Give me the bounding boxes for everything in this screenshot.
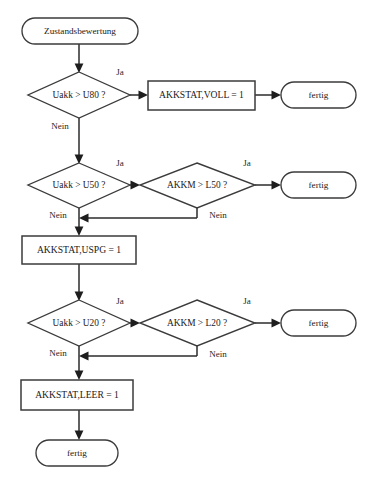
node-end-fertig-l50[interactable]: fertig [281, 172, 356, 198]
node-process-akkstat-uspg[interactable]: AKKSTAT,USPG = 1 [22, 236, 136, 264]
edge-label-ja-l20: Ja [243, 296, 251, 306]
edge-start-to-u80 [75, 43, 84, 73]
edge-label-ja-l50: Ja [243, 158, 251, 168]
node-decision-uakk-u80-label: Uakk > U80 ? [53, 90, 106, 100]
node-decision-uakk-u20-label: Uakk > U20 ? [53, 318, 106, 328]
edge-set-leer-to-end [75, 410, 84, 440]
node-process-akkstat-uspg-label: AKKSTAT,USPG = 1 [37, 244, 121, 255]
edge-set-uspg-to-u20 [75, 263, 84, 301]
node-process-akkstat-voll[interactable]: AKKSTAT,VOLL = 1 [148, 81, 255, 110]
node-decision-akkm-l50-label: AKKM > L50 ? [167, 180, 227, 190]
edge-u80-nein-to-u50 [75, 115, 84, 164]
node-start-zustandsbewertung[interactable]: Zustandsbewertung [22, 18, 138, 44]
edge-l50-nein-merge [79, 206, 197, 222]
flowchart-svg: set_voll --> dec_u50 --> dec_l50 --> end… [0, 0, 376, 486]
node-decision-uakk-u50-label: Uakk > U50 ? [53, 180, 106, 190]
node-decision-uakk-u80[interactable]: Uakk > U80 ? [28, 72, 130, 118]
node-end-fertig-l20-label: fertig [309, 318, 329, 328]
node-end-fertig-voll[interactable]: fertig [281, 82, 356, 108]
edge-l50-ja-to-end [255, 181, 281, 190]
edge-set-voll-to-end [255, 91, 281, 100]
edge-label-nein-u20: Nein [49, 348, 67, 358]
edge-label-nein-u80: Nein [51, 121, 69, 131]
edge-label-ja-u50: Ja [116, 158, 124, 168]
edge-l20-ja-to-end [255, 319, 281, 328]
edge-u20-nein-to-set-leer [75, 345, 84, 380]
node-process-akkstat-leer[interactable]: AKKSTAT,LEER = 1 [21, 380, 133, 410]
edge-l20-nein-merge [79, 345, 197, 360]
edge-label-ja-u20: Ja [116, 296, 124, 306]
edge-label-nein-u50: Nein [49, 210, 67, 220]
node-decision-uakk-u20[interactable]: Uakk > U20 ? [28, 300, 130, 346]
edge-label-ja-u80: Ja [116, 67, 124, 77]
edge-label-nein-l50: Nein [209, 210, 227, 220]
node-process-akkstat-voll-label: AKKSTAT,VOLL = 1 [159, 89, 244, 100]
node-decision-akkm-l50[interactable]: AKKM > L50 ? [140, 163, 255, 208]
node-end-fertig-leer-label: fertig [67, 448, 87, 458]
node-end-fertig-voll-label: fertig [309, 90, 329, 100]
edge-u50-nein-to-set-uspg [75, 206, 84, 236]
node-end-fertig-leer[interactable]: fertig [36, 440, 118, 466]
node-process-akkstat-leer-label: AKKSTAT,LEER = 1 [35, 389, 119, 400]
flowchart-canvas: set_voll --> dec_u50 --> dec_l50 --> end… [0, 0, 376, 486]
node-end-fertig-l50-label: fertig [309, 180, 329, 190]
edge-u80-ja-to-set-voll [130, 91, 148, 100]
node-decision-akkm-l20[interactable]: AKKM > L20 ? [140, 300, 255, 346]
node-end-fertig-l20[interactable]: fertig [281, 310, 356, 336]
node-decision-uakk-u50[interactable]: Uakk > U50 ? [28, 163, 130, 208]
node-decision-akkm-l20-label: AKKM > L20 ? [167, 318, 227, 328]
edge-label-nein-l20: Nein [209, 349, 227, 359]
node-start-label: Zustandsbewertung [44, 26, 116, 36]
